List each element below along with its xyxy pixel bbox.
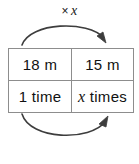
top-arrowhead-icon	[97, 32, 106, 43]
cell-distance-original: 18 m	[9, 49, 72, 81]
cell-times-scaled: x times	[72, 81, 134, 113]
cell-distance-scaled-text: 15 m	[85, 56, 120, 73]
cell-times-original-text: 1 time	[19, 88, 62, 105]
top-multiplier-label: ×x	[0, 4, 139, 18]
cell-distance-original-text: 18 m	[23, 56, 58, 73]
table-row: 1 time x times	[9, 81, 134, 113]
cell-distance-scaled: 15 m	[72, 49, 134, 81]
table-row: 18 m 15 m	[9, 49, 134, 81]
cell-times-original: 1 time	[9, 81, 72, 113]
top-multiplier-variable: x	[69, 3, 78, 18]
bottom-arrowhead-icon	[99, 116, 108, 127]
top-arc-path	[22, 26, 104, 45]
cell-times-scaled-variable: x	[78, 88, 85, 105]
cell-times-scaled-text: x times	[78, 88, 127, 106]
cell-times-scaled-unit: times	[90, 88, 127, 105]
ratio-table-diagram: ×x 18 m 15 m 1 time	[0, 0, 139, 164]
bottom-arc-path	[22, 114, 106, 135]
ratio-table: 18 m 15 m 1 time x times	[8, 48, 134, 113]
top-multiplication-sign: ×	[61, 4, 69, 18]
